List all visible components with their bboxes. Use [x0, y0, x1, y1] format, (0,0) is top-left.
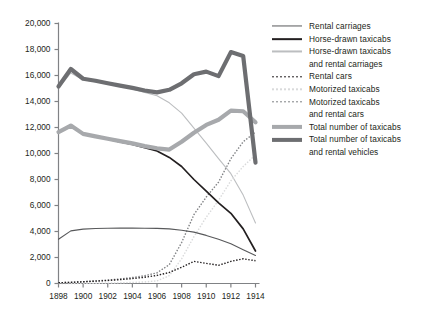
legend-item-horse_drawn_and_rental_carriages: Horse-drawn taxicabs [272, 45, 427, 58]
legend-item-total_taxicabs: Total number of taxicabs [272, 121, 427, 134]
legend-label-horse_drawn_and_rental_carriages-line2: and rental carriages [309, 58, 427, 71]
y-axis-tick-label: 4,000 [0, 226, 51, 236]
legend-swatch-total_taxicabs-icon [272, 121, 304, 134]
legend-swatch-horse_drawn_taxicabs-icon [272, 33, 304, 46]
y-axis-tick-label: 18,000 [0, 44, 51, 54]
series-line-total_taxicabs [59, 111, 256, 150]
y-axis-tick-label: 2,000 [0, 252, 51, 262]
legend-label-motorized_taxicabs_and_rental_cars-line2: and rental cars [309, 108, 427, 121]
legend-item-motorized_taxicabs_and_rental_cars: Motorized taxicabs [272, 96, 427, 109]
legend-label-total_taxicabs_and_rental_vehicles: Total number of taxicabs [309, 133, 401, 146]
y-axis-tick-label: 20,000 [0, 18, 51, 28]
legend-swatch-motorized_taxicabs-icon [272, 83, 304, 96]
series-line-motorized_taxicabs [59, 155, 256, 284]
legend-item-horse_drawn_taxicabs: Horse-drawn taxicabs [272, 33, 427, 46]
legend-label-total_taxicabs_and_rental_vehicles-line2: and rental vehicles [309, 146, 427, 159]
chart-legend: Rental carriagesHorse-drawn taxicabsHors… [272, 20, 427, 159]
series-line-rental_carriages [59, 228, 256, 255]
legend-label-total_taxicabs: Total number of taxicabs [309, 121, 401, 134]
y-axis-tick-label: 10,000 [0, 148, 51, 158]
y-axis-tick-label: 14,000 [0, 96, 51, 106]
series-line-total_taxicabs_and_rental_vehicles [59, 52, 256, 163]
series-line-rental_cars [59, 259, 256, 283]
legend-item-total_taxicabs_and_rental_vehicles: Total number of taxicabs [272, 133, 427, 146]
legend-swatch-horse_drawn_and_rental_carriages-icon [272, 45, 304, 58]
y-axis-tick-label: 8,000 [0, 174, 51, 184]
legend-item-motorized_taxicabs: Motorized taxicabs [272, 83, 427, 96]
legend-swatch-rental_cars-icon [272, 70, 304, 83]
chart-container: 02,0004,0006,0008,00010,00012,00014,0001… [0, 0, 427, 315]
legend-label-rental_cars: Rental cars [309, 70, 352, 83]
legend-label-horse_drawn_taxicabs: Horse-drawn taxicabs [309, 33, 391, 46]
x-axis-tick-label: 1914 [236, 291, 276, 301]
y-axis-tick-label: 0 [0, 278, 51, 288]
legend-item-rental_carriages: Rental carriages [272, 20, 427, 33]
legend-label-motorized_taxicabs_and_rental_cars: Motorized taxicabs [309, 96, 380, 109]
y-axis-tick-label: 6,000 [0, 200, 51, 210]
y-axis-tick-label: 16,000 [0, 70, 51, 80]
legend-item-rental_cars: Rental cars [272, 70, 427, 83]
legend-label-motorized_taxicabs: Motorized taxicabs [309, 83, 380, 96]
legend-swatch-total_taxicabs_and_rental_vehicles-icon [272, 133, 304, 146]
legend-label-rental_carriages: Rental carriages [309, 20, 371, 33]
legend-swatch-rental_carriages-icon [272, 20, 304, 33]
series-line-motorized_taxicabs_and_rental_cars [59, 132, 256, 283]
legend-swatch-motorized_taxicabs_and_rental_cars-icon [272, 96, 304, 109]
legend-label-horse_drawn_and_rental_carriages: Horse-drawn taxicabs [309, 45, 391, 58]
y-axis-tick-label: 12,000 [0, 122, 51, 132]
